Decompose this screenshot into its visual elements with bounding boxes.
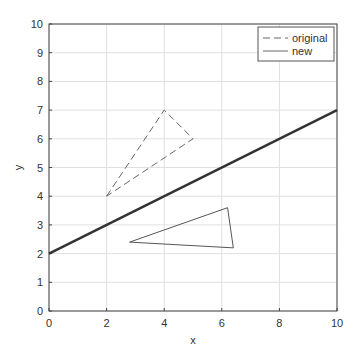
series-new [130,208,234,248]
x-tick-label: 2 [104,317,110,329]
y-tick-label: 2 [37,248,43,260]
x-tick-label: 4 [161,317,167,329]
y-tick-label: 1 [37,276,43,288]
y-tick-label: 9 [37,47,43,59]
legend-label-original: original [292,32,327,44]
series-line [49,110,337,254]
y-tick-label: 3 [37,219,43,231]
y-tick-label: 8 [37,75,43,87]
y-tick-label: 0 [37,305,43,317]
y-tick-label: 7 [37,104,43,116]
x-tick-label: 8 [276,317,282,329]
series-original [107,110,193,196]
legend-label-new: new [292,45,312,57]
x-tick-label: 6 [219,317,225,329]
x-tick-label: 0 [46,317,52,329]
y-tick-label: 4 [37,190,43,202]
plot-svg: 0246810012345678910xyoriginalnew [0,0,360,362]
chart-figure: 0246810012345678910xyoriginalnew [0,0,360,362]
x-axis-label: x [190,334,196,346]
y-tick-label: 6 [37,133,43,145]
y-tick-label: 10 [31,18,43,30]
y-axis-label: y [12,164,24,170]
y-tick-label: 5 [37,162,43,174]
x-tick-label: 10 [331,317,343,329]
